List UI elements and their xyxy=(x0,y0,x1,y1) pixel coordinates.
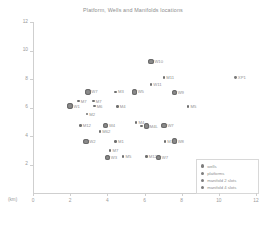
data-point-m2[interactable] xyxy=(172,138,177,143)
data-point-m2[interactable] xyxy=(105,155,110,160)
data-point-label: M4L xyxy=(150,124,158,129)
data-point-well[interactable] xyxy=(79,124,82,127)
data-point-label: W9 xyxy=(178,90,184,95)
legend-label: wells xyxy=(207,164,216,169)
legend-item[interactable]: manifold 2 slots xyxy=(201,177,236,184)
legend-item[interactable]: wells xyxy=(201,163,217,170)
legend-marker-icon xyxy=(201,186,204,189)
x-tick xyxy=(70,193,71,196)
legend-label: manifold 4 slots xyxy=(207,185,236,190)
data-point-m4[interactable] xyxy=(144,123,149,128)
legend-marker-icon xyxy=(201,164,204,167)
data-point-well[interactable] xyxy=(114,91,117,94)
data-point-m2[interactable] xyxy=(161,123,166,128)
data-point-label: M6 xyxy=(97,104,103,109)
x-tick xyxy=(182,193,183,196)
y-tick-label: 2 xyxy=(14,161,28,166)
data-point-label: W5 xyxy=(138,89,144,94)
x-tick-label: 0 xyxy=(25,198,41,203)
data-point-label: M11 xyxy=(166,75,174,80)
y-tick xyxy=(30,108,33,109)
x-tick-label: 8 xyxy=(174,198,190,203)
data-point-label: M2 xyxy=(89,112,95,117)
x-tick-label: 4 xyxy=(99,198,115,203)
data-point-label: M12 xyxy=(83,123,91,128)
y-tick xyxy=(30,136,33,137)
data-point-label: W7 xyxy=(167,123,173,128)
legend-marker-icon xyxy=(201,172,204,175)
data-point-label: M62 xyxy=(102,129,110,134)
x-tick-label: 10 xyxy=(211,198,227,203)
data-point-well[interactable] xyxy=(116,105,119,108)
y-tick-label: 12 xyxy=(14,19,28,24)
data-point-label: M5 xyxy=(190,104,196,109)
data-point-label: XP1 xyxy=(238,75,246,80)
data-point-well[interactable] xyxy=(114,140,117,143)
data-point-label: W4 xyxy=(109,123,115,128)
y-tick-label: 6 xyxy=(14,104,28,109)
x-tick xyxy=(219,193,220,196)
data-point-label: M7 xyxy=(81,99,87,104)
chart-figure: Platform, Wells and Manifolds locations … xyxy=(0,0,266,225)
x-axis-unit-label: (km) xyxy=(8,197,17,202)
y-tick xyxy=(30,165,33,166)
x-tick xyxy=(145,193,146,196)
data-point-m2[interactable] xyxy=(132,89,137,94)
data-point-label: W7 xyxy=(162,155,168,160)
data-point-m2[interactable] xyxy=(67,103,72,108)
data-point-m2[interactable] xyxy=(148,59,153,64)
data-point-m2[interactable] xyxy=(83,139,88,144)
legend-label: platforms xyxy=(207,171,224,176)
x-tick xyxy=(107,193,108,196)
legend-item[interactable]: manifold 4 slots xyxy=(201,184,236,191)
y-tick xyxy=(30,79,33,80)
data-point-label: M4 xyxy=(120,104,126,109)
chart-title: Platform, Wells and Manifolds locations xyxy=(0,7,266,13)
data-point-well[interactable] xyxy=(145,155,148,158)
x-tick-label: 2 xyxy=(62,198,78,203)
data-point-label: W7 xyxy=(91,89,97,94)
legend-marker-icon xyxy=(201,179,204,182)
data-point-label: M7 xyxy=(112,148,118,153)
chart-legend: wellsplatformsmanifold 2 slotsmanifold 4… xyxy=(196,159,259,194)
x-tick-label: 6 xyxy=(137,198,153,203)
data-point-label: W10 xyxy=(154,59,163,64)
x-tick xyxy=(256,193,257,196)
data-point-label: M5 xyxy=(125,154,131,159)
y-tick-label: 10 xyxy=(14,47,28,52)
data-point-label: W8 xyxy=(178,139,184,144)
data-point-label: W3 xyxy=(111,155,117,160)
data-point-well[interactable] xyxy=(93,105,96,108)
data-point-m2[interactable] xyxy=(85,89,90,94)
x-tick-label: 12 xyxy=(248,198,264,203)
y-tick xyxy=(30,22,33,23)
legend-label: manifold 2 slots xyxy=(207,178,236,183)
data-point-plat[interactable] xyxy=(234,76,237,79)
y-tick-label: 8 xyxy=(14,76,28,81)
data-point-label: M1 xyxy=(118,139,124,144)
legend-item[interactable]: platforms xyxy=(201,170,224,177)
data-point-label: W1 xyxy=(74,104,80,109)
data-point-label: W11 xyxy=(153,82,161,87)
data-point-label: W2 xyxy=(89,139,95,144)
y-tick xyxy=(30,51,33,52)
data-point-label: M3 xyxy=(118,89,124,94)
x-tick xyxy=(33,193,34,196)
y-tick-label: 4 xyxy=(14,133,28,138)
